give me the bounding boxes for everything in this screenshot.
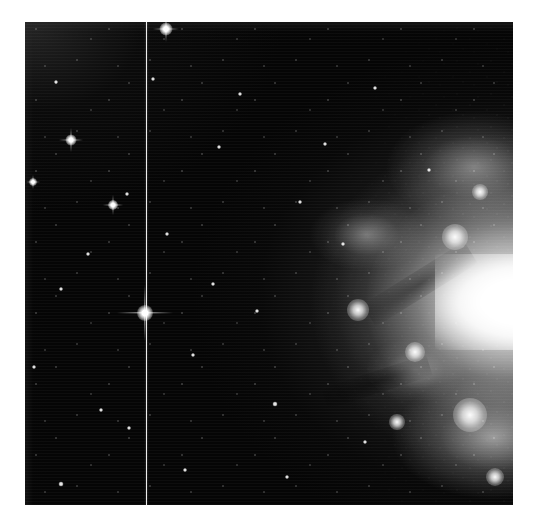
star-upper-left (59, 128, 83, 152)
knot-lower-cluster (453, 398, 487, 432)
medium-star (99, 408, 103, 412)
star-disc (137, 305, 153, 321)
vertical-detector-column-artifact (146, 22, 147, 505)
star-left-mid (103, 195, 123, 215)
medium-star (373, 86, 377, 90)
star-left-edge (26, 175, 40, 189)
medium-star (59, 482, 64, 487)
star-top-center (153, 22, 179, 42)
star-disc (29, 178, 37, 186)
star-disc (160, 23, 173, 36)
medium-star (273, 402, 278, 407)
star-disc (108, 200, 118, 210)
medium-star (238, 92, 242, 96)
star-center-left (117, 285, 173, 341)
medium-star (86, 252, 90, 256)
medium-star (255, 309, 259, 313)
knot-inner-west (389, 414, 405, 430)
medium-star (54, 80, 58, 84)
knot-south-tip (486, 468, 504, 486)
knot-mid-galaxy (405, 342, 425, 362)
medium-star (151, 77, 155, 81)
image-page (0, 0, 535, 526)
knot-upper-galaxy (442, 224, 468, 250)
astronomical-image-plate (25, 22, 513, 505)
medium-star (217, 145, 221, 149)
medium-star (211, 282, 215, 286)
medium-star (427, 168, 431, 172)
medium-star (285, 475, 289, 479)
knot-west-arm (347, 299, 369, 321)
medium-star (32, 365, 36, 369)
medium-star (59, 287, 63, 291)
medium-star (127, 426, 131, 430)
medium-star (298, 200, 302, 204)
medium-star (191, 353, 195, 357)
medium-star (125, 192, 129, 196)
medium-star (165, 232, 169, 236)
star-disc (66, 135, 77, 146)
medium-star (341, 242, 345, 246)
medium-star (363, 440, 367, 444)
medium-star (323, 142, 327, 146)
knot-north-rim (472, 184, 488, 200)
galaxy-saturated-core (435, 254, 513, 351)
medium-star (183, 468, 187, 472)
